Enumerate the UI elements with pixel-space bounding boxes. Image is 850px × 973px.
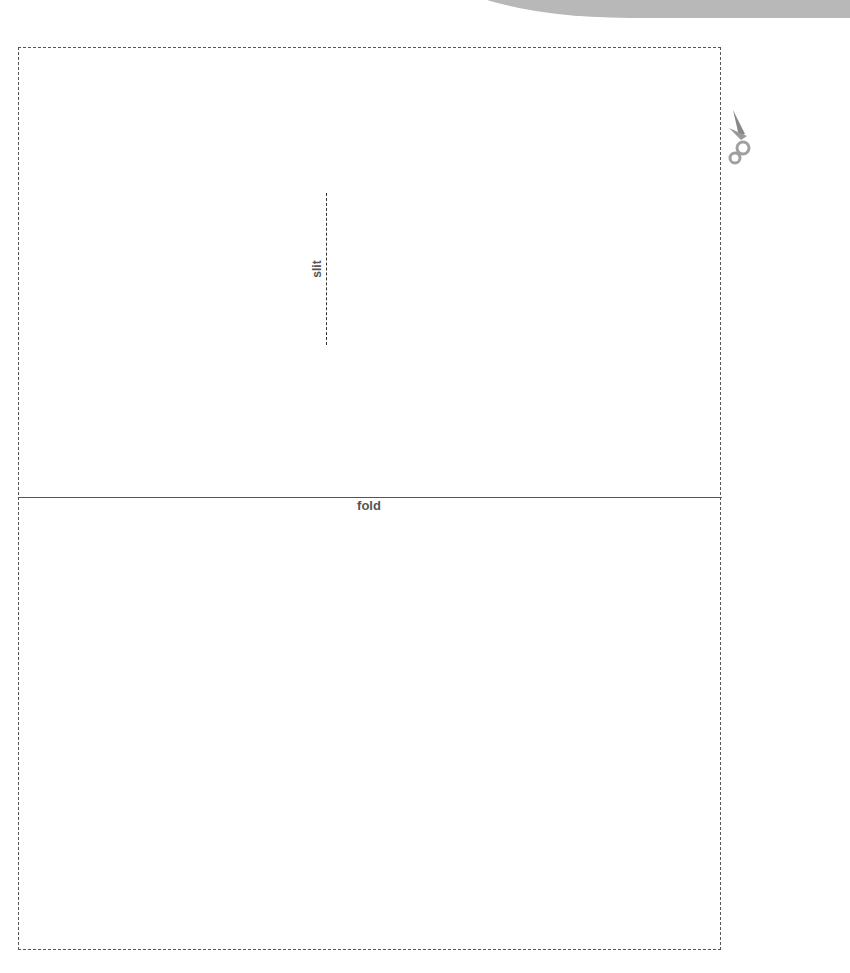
photocopiable-banner: PHOTOCOPIABLE	[430, 0, 850, 18]
slit-label: slit	[310, 254, 324, 284]
scissors-icon	[725, 106, 755, 166]
fold-label: fold	[344, 498, 394, 513]
slit-line	[326, 193, 327, 345]
